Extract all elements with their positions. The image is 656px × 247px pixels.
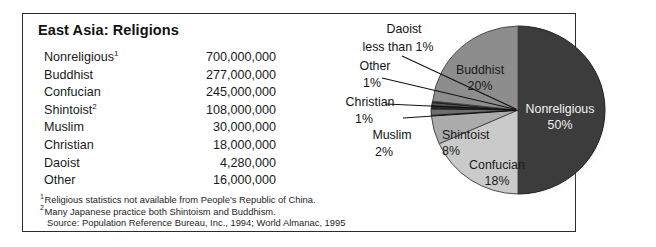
slice-label-buddhist-pct: 20%	[468, 79, 493, 93]
row-value: 18,000,000	[152, 138, 276, 152]
footnote-marker: 1	[114, 49, 118, 58]
row-value: 108,000,000	[152, 103, 276, 117]
row-value: 30,000,000	[152, 120, 276, 134]
callout-christian-pct: 1%	[355, 112, 373, 126]
table-row: Shintoist2 108,000,000	[44, 103, 276, 121]
page-title: East Asia: Religions	[38, 22, 179, 38]
row-value: 4,280,000	[152, 156, 276, 170]
table-row: Confucian 245,000,000	[44, 85, 276, 103]
callout-daoist-pct: less than 1%	[363, 40, 434, 54]
callout-muslim-name: Muslim	[372, 128, 411, 142]
callout-other-name: Other	[360, 59, 391, 73]
row-label: Daoist	[44, 156, 152, 170]
row-label: Nonreligious1	[44, 50, 152, 64]
row-value: 277,000,000	[152, 68, 276, 82]
row-label: Buddhist	[44, 68, 152, 82]
figure-east-asia-religions: East Asia: Religions Nonreligious1 700,0…	[0, 0, 656, 247]
table-row: Other 16,000,000	[44, 173, 276, 191]
row-value: 16,000,000	[152, 173, 276, 187]
religion-data-table: Nonreligious1 700,000,000 Buddhist 277,0…	[44, 50, 276, 191]
row-label: Muslim	[44, 120, 152, 134]
slice-label-nonreligious-name: Nonreligious	[526, 102, 595, 116]
row-label: Confucian	[44, 85, 152, 99]
table-row: Nonreligious1 700,000,000	[44, 50, 276, 68]
table-row: Christian 18,000,000	[44, 138, 276, 156]
row-value: 245,000,000	[152, 85, 276, 99]
table-row: Daoist 4,280,000	[44, 156, 276, 174]
slice-label-shintoist-pct: 8%	[442, 144, 460, 158]
row-label: Christian	[44, 138, 152, 152]
row-label: Shintoist2	[44, 103, 152, 117]
slice-label-nonreligious-pct: 50%	[548, 118, 573, 132]
slice-label-confucian-pct: 18%	[485, 174, 510, 188]
table-row: Buddhist 277,000,000	[44, 68, 276, 86]
row-label: Other	[44, 173, 152, 187]
footnote-marker: 2	[92, 102, 96, 111]
callout-muslim-pct: 2%	[375, 145, 393, 159]
callout-other-pct: 1%	[363, 76, 381, 90]
slice-label-confucian-name: Confucian	[469, 158, 525, 172]
callout-christian-name: Christian	[346, 95, 395, 109]
row-value: 700,000,000	[152, 50, 276, 64]
table-row: Muslim 30,000,000	[44, 120, 276, 138]
pie-chart: Daoist less than 1% Other 1% Christian 1…	[330, 8, 656, 240]
slice-label-buddhist-name: Buddhist	[456, 63, 505, 77]
slice-label-shintoist-name: Shintoist	[442, 128, 490, 142]
callout-daoist-name: Daoist	[386, 22, 422, 36]
